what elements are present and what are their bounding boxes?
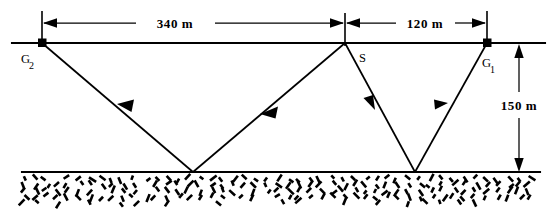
- hatch-dash: [222, 188, 224, 193]
- hatch-dash: [123, 183, 127, 189]
- raypath-left: [42, 43, 345, 172]
- hatch-dash: [520, 195, 525, 200]
- hatch-dash: [484, 195, 486, 200]
- hatch-dash: [64, 183, 67, 188]
- ray-segment-reflection-to-g2: [42, 43, 193, 172]
- hatch-dash: [431, 187, 434, 192]
- hatch-dash: [167, 176, 171, 181]
- hatch-dash: [394, 194, 399, 199]
- hatch-dash: [420, 197, 422, 202]
- hatch-dash: [422, 199, 427, 204]
- hatch-dash: [165, 196, 167, 201]
- hatch-dash: [195, 180, 199, 187]
- hatch-dash: [364, 190, 367, 194]
- hatch-dash: [374, 189, 376, 193]
- hatch-dash: [131, 176, 133, 180]
- hatch-dash: [110, 178, 112, 183]
- hatch-dash: [233, 176, 238, 182]
- hatch-dash: [295, 196, 299, 200]
- station-sublabel-g2: 2: [29, 60, 34, 71]
- hatch-dash: [528, 195, 531, 200]
- hatch-dash: [64, 175, 70, 179]
- hatch-dash: [321, 193, 324, 199]
- hatch-dash: [426, 185, 430, 188]
- hatch-dash: [48, 184, 51, 188]
- hatch-dash: [483, 177, 488, 182]
- hatch-dash: [516, 181, 520, 186]
- hatch-dash: [496, 188, 499, 193]
- dimension-120: 120 m: [346, 16, 486, 31]
- arrow-head-340-left: [43, 18, 57, 28]
- hatch-dash: [56, 202, 60, 209]
- horizontal-dimension-band: 340 m 120 m: [42, 11, 487, 46]
- hatch-dash: [153, 181, 157, 187]
- hatch-dash: [87, 190, 92, 196]
- hatch-dash: [523, 181, 529, 187]
- hatch-dash: [268, 190, 271, 194]
- hatch-dash: [134, 201, 139, 206]
- hatch-dash: [286, 182, 291, 188]
- hatch-dash: [476, 182, 480, 189]
- ray-segment-s-to-reflection-left: [193, 43, 345, 172]
- hatch-dash: [387, 192, 390, 198]
- hatch-dash: [364, 194, 368, 199]
- hatch-dash: [151, 195, 156, 200]
- hatch-dash: [240, 183, 245, 188]
- hatch-dash: [24, 176, 26, 180]
- hatch-dash: [316, 176, 319, 183]
- hatch-dash: [122, 188, 126, 192]
- hatch-dash: [376, 184, 379, 188]
- hatch-dash: [229, 190, 235, 195]
- bedrock-hatching: [19, 174, 536, 208]
- hatch-dash: [54, 182, 59, 187]
- hatch-dash: [433, 194, 436, 198]
- hatch-dash: [395, 189, 398, 194]
- hatch-dash: [344, 183, 348, 190]
- hatch-dash: [366, 176, 370, 179]
- diagram-canvas: 340 m 120 m: [0, 0, 557, 210]
- hatch-dash: [461, 190, 466, 195]
- hatch-dash: [109, 183, 113, 187]
- hatch-dash: [471, 194, 475, 198]
- arrow-head-ray-right-down: [364, 95, 376, 110]
- arrow-head-ray-right-up: [434, 100, 448, 110]
- hatch-dash: [36, 187, 39, 194]
- hatch-dash: [276, 183, 282, 188]
- dimension-150: 150 m: [501, 44, 538, 172]
- hatch-dash: [156, 187, 159, 192]
- hatch-dash: [455, 188, 458, 193]
- hatch-dash: [439, 175, 442, 179]
- hatch-dash: [275, 194, 280, 197]
- hatch-dash: [355, 187, 358, 192]
- hatch-dash: [473, 175, 477, 179]
- hatch-dash: [395, 182, 399, 188]
- hatch-dash: [443, 194, 448, 201]
- hatch-dash: [99, 176, 105, 181]
- hatch-dash: [187, 195, 192, 200]
- hatch-dash: [184, 187, 187, 194]
- arrow-head-150-up: [514, 44, 523, 58]
- hatch-dash: [188, 181, 194, 187]
- hatch-dash: [210, 176, 217, 181]
- hatch-dash: [407, 201, 409, 207]
- hatch-dash: [274, 188, 278, 192]
- dimension-340: 340 m: [43, 16, 344, 31]
- hatch-dash: [41, 177, 46, 181]
- hatch-dash: [120, 202, 123, 206]
- hatch-dash: [288, 189, 294, 195]
- hatch-dash: [498, 195, 501, 200]
- hatch-dash: [185, 174, 190, 180]
- hatch-dash: [210, 183, 215, 187]
- hatch-dash: [419, 190, 423, 196]
- hatch-dash: [90, 194, 93, 202]
- hatch-dash: [382, 191, 388, 196]
- hatch-dash: [473, 187, 476, 192]
- hatch-dash: [333, 181, 337, 185]
- hatch-dash: [297, 186, 300, 192]
- ray-segment-reflection-to-g1: [415, 43, 487, 172]
- hatch-dash: [64, 193, 68, 200]
- hatch-dash: [146, 194, 149, 202]
- hatch-dash: [408, 183, 411, 187]
- geophone-marker-g2: [38, 39, 47, 48]
- hatch-dash: [473, 199, 476, 206]
